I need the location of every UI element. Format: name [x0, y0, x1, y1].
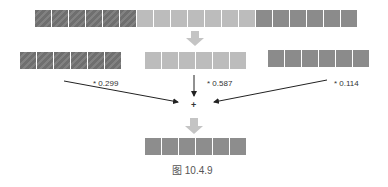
r-weight-label: * 0.299 [93, 79, 118, 88]
arrows-layer [0, 0, 388, 187]
plus-operator: + [191, 100, 196, 110]
g-weight-label: * 0.587 [207, 79, 232, 88]
split-down-arrow-icon [186, 31, 204, 46]
r-weight-arrow-icon [64, 81, 178, 102]
b-weight-label: * 0.114 [334, 79, 359, 88]
figure-caption: 图 10.4.9 [172, 162, 213, 177]
result-down-arrow-icon [185, 118, 203, 134]
